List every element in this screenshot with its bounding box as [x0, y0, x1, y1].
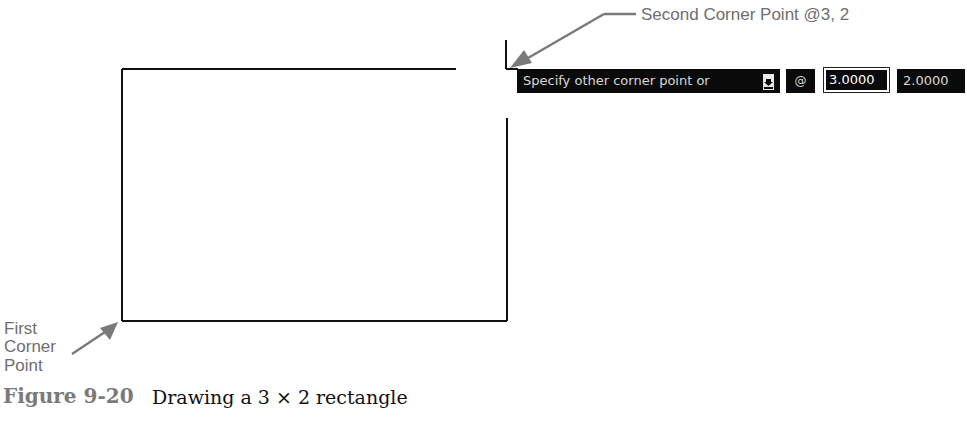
- y-coordinate-input[interactable]: 2.0000: [897, 69, 965, 93]
- rectangle-preview: [122, 69, 507, 321]
- x-coordinate-value[interactable]: 3.0000: [826, 70, 887, 90]
- second-corner-label: Second Corner Point @3, 2: [641, 6, 849, 24]
- dynamic-input-prompt: Specify other corner point or: [517, 69, 780, 93]
- x-coordinate-input[interactable]: 3.0000: [823, 67, 890, 93]
- figure-caption: Drawing a 3 × 2 rectangle: [152, 386, 408, 408]
- down-arrow-icon[interactable]: [763, 74, 774, 86]
- first-corner-label-line3: Point: [4, 357, 43, 375]
- first-corner-leader-arrow: [72, 322, 118, 354]
- second-corner-leader-arrow: [510, 14, 636, 68]
- drawing-canvas[interactable]: [0, 0, 967, 427]
- first-corner-label-line2: Corner: [4, 338, 56, 356]
- prompt-text: Specify other corner point or: [523, 73, 710, 88]
- relative-coordinate-symbol: @: [786, 69, 815, 93]
- first-corner-label-line1: First: [4, 320, 37, 338]
- figure-label: Figure 9-20: [3, 384, 134, 408]
